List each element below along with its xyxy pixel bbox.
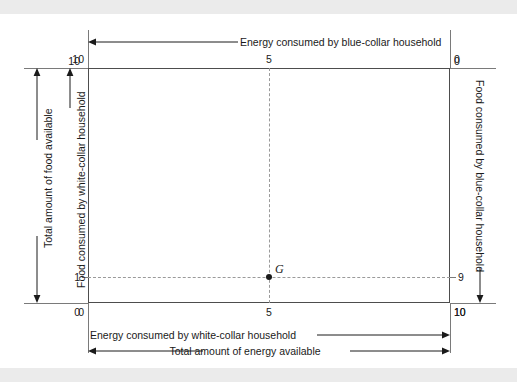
tick-rule-right-bottom [450,303,496,304]
tick-rule-top-right [450,30,451,68]
figure-canvas: G 10 5 0 0 5 10 10 1 0 0 9 10 Energy con… [0,0,517,382]
tick-rule-left-bottom [24,303,88,304]
total-food-label: Total amount of food available [42,108,54,248]
point-g-marker [266,274,272,280]
tick-stub-right-nine [450,277,456,278]
top-axis-label: Energy consumed by blue-collar household [240,36,441,48]
left-axis-tick-0: 0 [52,307,80,318]
right-axis-arrow [474,268,486,303]
guide-line-vertical [269,68,270,303]
left-axis-label: Food consumed by white-collar household [75,91,87,288]
point-g-label: G [275,262,284,277]
right-axis-tick-0: 0 [454,56,460,67]
right-axis-tick-9: 9 [458,272,464,283]
right-axis-tick-10: 10 [454,307,466,318]
bottom-axis-tick-5: 5 [255,307,283,318]
top-axis-arrow [88,36,238,48]
bottom-axis-arrow [317,329,450,341]
top-axis-tick-5: 5 [255,54,283,65]
tick-rule-right-top [450,68,496,69]
total-energy-label: Total amount of energy available [120,345,370,357]
bottom-axis-label: Energy consumed by white-collar househol… [90,329,296,341]
right-axis-label: Food consumed by blue-collar household [474,80,486,272]
left-axis-tick-10: 10 [52,56,80,67]
tick-rule-bottom-right [450,303,451,353]
